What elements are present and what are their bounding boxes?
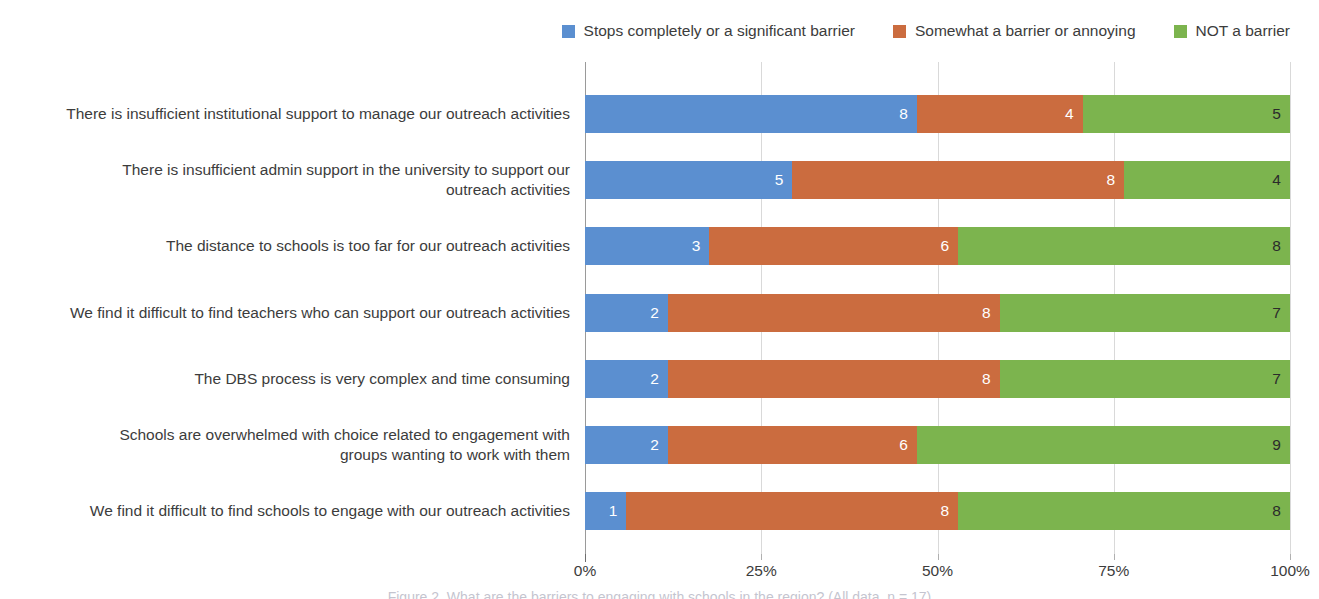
x-tick-mark bbox=[585, 554, 586, 562]
bar-segment-value: 8 bbox=[1272, 239, 1281, 255]
legend-item-not-a-barrier: NOT a barrier bbox=[1174, 23, 1290, 39]
bar-segment: 9 bbox=[917, 426, 1290, 464]
bar-row: 845 bbox=[585, 95, 1290, 133]
bar-segment-value: 7 bbox=[1272, 371, 1281, 387]
legend-label-somewhat-barrier: Somewhat a barrier or annoying bbox=[915, 23, 1136, 39]
category-label-line: outreach activities bbox=[446, 180, 570, 200]
x-tick-label: 50% bbox=[922, 563, 953, 579]
bar-row: 188 bbox=[585, 492, 1290, 530]
bar-row: 269 bbox=[585, 426, 1290, 464]
bar-segment-value: 8 bbox=[982, 371, 991, 387]
bar-segment: 8 bbox=[792, 161, 1124, 199]
legend-swatch-green bbox=[1174, 25, 1187, 38]
bar-segment-value: 9 bbox=[1272, 437, 1281, 453]
bar-segment-value: 8 bbox=[899, 106, 908, 122]
category-label: We find it difficult to find teachers wh… bbox=[0, 294, 570, 332]
category-label-line: groups wanting to work with them bbox=[340, 445, 570, 465]
gridline-100 bbox=[1290, 62, 1291, 554]
category-label: There is insufficient admin support in t… bbox=[0, 161, 570, 199]
bar-segment-value: 4 bbox=[1272, 172, 1281, 188]
category-label: Schools are overwhelmed with choice rela… bbox=[0, 426, 570, 464]
legend-swatch-orange bbox=[893, 25, 906, 38]
chart-legend: Stops completely or a significant barrie… bbox=[0, 0, 1319, 62]
bar-segment: 4 bbox=[917, 95, 1083, 133]
bar-segment-value: 3 bbox=[692, 239, 701, 255]
x-tick-mark bbox=[938, 554, 939, 560]
bar-segment-value: 2 bbox=[650, 437, 659, 453]
x-tick-label: 75% bbox=[1098, 563, 1129, 579]
plot-area: 845584368287287269188 bbox=[585, 62, 1290, 554]
bar-segment: 8 bbox=[626, 492, 958, 530]
x-tick-mark bbox=[761, 554, 762, 560]
bar-segment: 4 bbox=[1124, 161, 1290, 199]
category-label-line: The DBS process is very complex and time… bbox=[194, 369, 570, 389]
category-label-line: Schools are overwhelmed with choice rela… bbox=[119, 425, 570, 445]
category-label: There is insufficient institutional supp… bbox=[0, 95, 570, 133]
bar-segment: 5 bbox=[1083, 95, 1290, 133]
category-label-line: There is insufficient institutional supp… bbox=[66, 104, 570, 124]
bar-segment: 8 bbox=[668, 360, 1000, 398]
bar-segment: 8 bbox=[958, 227, 1290, 265]
category-label-line: We find it difficult to find schools to … bbox=[90, 501, 570, 521]
bar-row: 287 bbox=[585, 360, 1290, 398]
bar-segment: 6 bbox=[668, 426, 917, 464]
bar-segment-value: 7 bbox=[1272, 305, 1281, 321]
bar-segment: 7 bbox=[1000, 360, 1290, 398]
category-label-line: There is insufficient admin support in t… bbox=[122, 160, 570, 180]
bar-segment-value: 6 bbox=[899, 437, 908, 453]
bar-segment-value: 4 bbox=[1065, 106, 1074, 122]
x-tick-label: 25% bbox=[746, 563, 777, 579]
bar-segment: 8 bbox=[585, 95, 917, 133]
x-tick-mark bbox=[1290, 554, 1291, 560]
bar-segment-value: 8 bbox=[982, 305, 991, 321]
bar-segment-value: 8 bbox=[1106, 172, 1115, 188]
legend-item-stops-completely: Stops completely or a significant barrie… bbox=[562, 23, 855, 39]
x-tick-label: 0% bbox=[574, 563, 596, 579]
category-label: The DBS process is very complex and time… bbox=[0, 360, 570, 398]
bar-segment: 5 bbox=[585, 161, 792, 199]
bar-segment-value: 2 bbox=[650, 371, 659, 387]
bar-segment-value: 5 bbox=[775, 172, 784, 188]
x-tick-mark bbox=[1114, 554, 1115, 560]
bar-row: 287 bbox=[585, 294, 1290, 332]
bar-segment-value: 2 bbox=[650, 305, 659, 321]
category-label: We find it difficult to find schools to … bbox=[0, 492, 570, 530]
bar-segment: 2 bbox=[585, 360, 668, 398]
bar-segment: 6 bbox=[709, 227, 958, 265]
bar-segment: 3 bbox=[585, 227, 709, 265]
bar-segment: 2 bbox=[585, 426, 668, 464]
category-axis-labels: There is insufficient institutional supp… bbox=[0, 62, 570, 554]
category-label: The distance to schools is too far for o… bbox=[0, 227, 570, 265]
x-tick-label: 100% bbox=[1270, 563, 1310, 579]
bar-segment: 8 bbox=[958, 492, 1290, 530]
bar-segment: 7 bbox=[1000, 294, 1290, 332]
legend-label-not-a-barrier: NOT a barrier bbox=[1196, 23, 1290, 39]
figure-caption: Figure 2. What are the barriers to engag… bbox=[0, 588, 1319, 599]
x-axis: 0%25%50%75%100% bbox=[585, 554, 1290, 584]
bar-segment-value: 6 bbox=[941, 239, 950, 255]
legend-swatch-blue bbox=[562, 25, 575, 38]
bar-segment: 2 bbox=[585, 294, 668, 332]
legend-label-stops-completely: Stops completely or a significant barrie… bbox=[584, 23, 855, 39]
stacked-bars: 845584368287287269188 bbox=[585, 62, 1290, 554]
bar-segment: 1 bbox=[585, 492, 626, 530]
bar-row: 584 bbox=[585, 161, 1290, 199]
bar-segment: 8 bbox=[668, 294, 1000, 332]
category-label-line: The distance to schools is too far for o… bbox=[166, 236, 570, 256]
bar-segment-value: 5 bbox=[1272, 106, 1281, 122]
bar-segment-value: 8 bbox=[941, 503, 950, 519]
bar-row: 368 bbox=[585, 227, 1290, 265]
legend-item-somewhat-barrier: Somewhat a barrier or annoying bbox=[893, 23, 1136, 39]
category-label-line: We find it difficult to find teachers wh… bbox=[70, 303, 570, 323]
bar-segment-value: 1 bbox=[609, 503, 618, 519]
bar-segment-value: 8 bbox=[1272, 503, 1281, 519]
